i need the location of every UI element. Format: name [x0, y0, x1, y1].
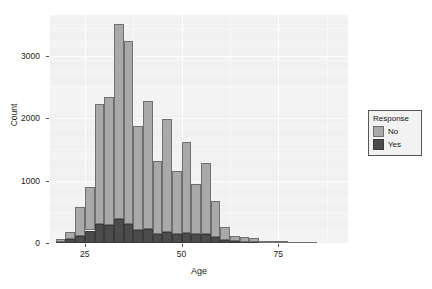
scan-artifact: [50, 33, 348, 40]
bar-segment-yes: [249, 242, 259, 243]
bar-segment-no: [288, 242, 298, 243]
gridline-horizontal-minor: [50, 87, 348, 88]
bar-segment-no: [307, 242, 317, 243]
bar-segment-yes: [104, 225, 114, 243]
bar-segment-no: [143, 101, 153, 230]
bar-segment-yes: [162, 232, 172, 243]
bar-segment-no: [124, 41, 134, 224]
legend-item-label: Yes: [388, 140, 401, 149]
bar-segment-yes: [182, 233, 192, 243]
bar-segment-no: [95, 104, 105, 223]
bar-segment-no: [75, 207, 85, 235]
bar-segment-no: [201, 163, 211, 234]
x-axis-tick-mark: [85, 244, 86, 247]
bar-segment-yes: [85, 231, 95, 243]
legend: Response NoYes: [368, 110, 422, 156]
x-axis-tick-mark: [278, 244, 279, 247]
gridline-vertical-minor: [230, 15, 231, 243]
y-axis-title: Count: [9, 85, 19, 145]
y-axis-tick-mark: [46, 118, 49, 119]
x-axis-tick-label: 25: [70, 250, 100, 259]
gridline-horizontal-minor: [50, 24, 348, 25]
x-axis-tick-label: 75: [263, 250, 293, 259]
bar-segment-yes: [230, 241, 240, 243]
bar-segment-no: [278, 241, 288, 243]
x-axis-tick-mark: [182, 244, 183, 247]
bar-segment-yes: [153, 234, 163, 243]
bar-segment-no: [85, 187, 95, 231]
bar-segment-yes: [172, 234, 182, 243]
legend-items: NoYes: [373, 125, 417, 151]
bar-segment-no: [249, 238, 259, 242]
bar-segment-yes: [65, 239, 75, 243]
bar-segment-yes: [191, 234, 201, 243]
legend-item: Yes: [373, 138, 417, 151]
bar-segment-yes: [95, 224, 105, 243]
scan-artifact: [50, 77, 348, 84]
bar-segment-yes: [56, 242, 66, 243]
bar-segment-no: [298, 242, 308, 243]
x-axis-tick-label: 50: [167, 250, 197, 259]
bar-segment-yes: [133, 230, 143, 243]
y-axis-tick-mark: [46, 243, 49, 244]
x-axis-title: Age: [50, 266, 348, 276]
bar-segment-no: [172, 171, 182, 235]
legend-item-label: No: [388, 127, 398, 136]
bar-segment-no: [133, 126, 143, 230]
bar-segment-no: [191, 184, 201, 235]
bar-segment-no: [104, 97, 114, 224]
gridline-vertical: [278, 15, 279, 243]
y-axis-tick-mark: [46, 56, 49, 57]
bar-segment-no: [162, 119, 172, 232]
bar-segment-no: [211, 201, 221, 237]
legend-color-swatch: [373, 126, 384, 137]
bar-segment-yes: [240, 242, 250, 243]
bar-segment-no: [56, 239, 66, 242]
bar-segment-yes: [201, 234, 211, 243]
bar-segment-yes: [75, 236, 85, 243]
bar-segment-no: [230, 236, 240, 242]
y-axis-tick-mark: [46, 181, 49, 182]
bar-segment-no: [259, 241, 269, 243]
scan-artifact: [50, 48, 348, 55]
bar-segment-no: [182, 142, 192, 233]
bar-segment-yes: [114, 219, 124, 243]
bar-segment-no: [65, 232, 75, 239]
bar-segment-no: [240, 237, 250, 241]
bar-segment-no: [220, 227, 230, 239]
y-axis-tick-label: 1000: [6, 177, 40, 185]
bar-segment-no: [269, 241, 279, 243]
gridline-horizontal: [50, 56, 348, 57]
plot-panel: [50, 15, 348, 243]
scan-artifact: [50, 62, 348, 69]
gridline-vertical-minor: [327, 15, 328, 243]
bar-segment-yes: [220, 240, 230, 243]
bar-segment-no: [114, 24, 124, 220]
legend-item: No: [373, 125, 417, 138]
bar-segment-yes: [143, 229, 153, 243]
bar-segment-yes: [211, 237, 221, 243]
y-axis-tick-label: 3000: [6, 52, 40, 60]
bar-segment-yes: [124, 224, 134, 243]
y-axis-tick-label: 0: [6, 239, 40, 247]
bar-segment-no: [153, 161, 163, 234]
legend-color-swatch: [373, 139, 384, 150]
chart-figure: 0100020003000 Count 255075 Age Response …: [0, 0, 432, 289]
legend-title: Response: [373, 114, 417, 123]
